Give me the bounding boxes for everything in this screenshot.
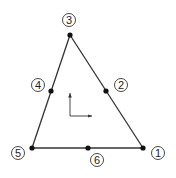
node-1: 1 (140, 145, 164, 159)
node-dot-icon (48, 88, 53, 93)
node-dot-icon (29, 145, 34, 150)
node-label: 3 (66, 14, 72, 26)
node-2: 2 (103, 79, 127, 94)
node-label: 1 (155, 147, 161, 159)
node-dot-icon (67, 32, 72, 37)
node-dot-icon (140, 145, 145, 150)
node-label: 6 (94, 154, 100, 166)
local-axes (70, 93, 92, 116)
node-dot-icon (85, 145, 90, 150)
node-label: 5 (15, 147, 21, 159)
node-dot-icon (103, 88, 108, 93)
triangle-element-diagram: 123456 (0, 0, 176, 178)
node-label: 4 (35, 79, 41, 91)
nodes: 123456 (12, 14, 165, 167)
node-3: 3 (63, 14, 76, 38)
node-label: 2 (118, 79, 124, 91)
node-5: 5 (12, 145, 35, 159)
node-4: 4 (32, 79, 54, 94)
